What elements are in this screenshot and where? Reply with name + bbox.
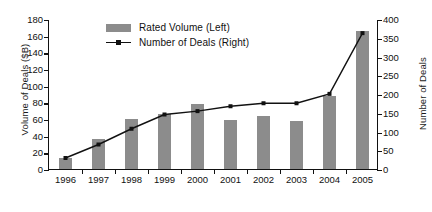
x-tick-label-2000: 2000 [187,175,208,185]
y-left-tick-label: 40 [32,132,43,142]
y-right-tick [377,20,382,21]
chart-container: Volume of Deals ($B) Number of Deals 020… [0,0,432,212]
x-tick-label-2003: 2003 [286,175,307,185]
y-right-tick [377,114,382,115]
line-marker-2001 [229,104,233,108]
y-left-tick [44,70,49,71]
x-tick-label-2002: 2002 [253,175,274,185]
x-tick-label-1999: 1999 [154,175,175,185]
y-left-tick [44,170,49,171]
x-tick [313,169,314,174]
y-left-tick-label: 140 [27,49,43,59]
y-left-tick-label: 20 [32,149,43,159]
y-left-tick [44,53,49,54]
y-left-tick [44,37,49,38]
y-right-tick [377,133,382,134]
x-tick-label-2005: 2005 [352,175,373,185]
y-left-tick [44,137,49,138]
x-tick-label-2001: 2001 [220,175,241,185]
y-right-tick-label: 100 [383,128,399,138]
y-right-tick-label: 400 [383,15,399,25]
y-right-tick-label: 50 [383,147,394,157]
y-left-tick-label: 80 [32,99,43,109]
legend-bar-swatch-icon [106,24,131,32]
y-left-tick [44,20,49,21]
line-marker-2003 [295,101,299,105]
legend-label-number-of-deals: Number of Deals (Right) [139,37,249,48]
line-series-path [66,33,363,158]
x-tick-label-2004: 2004 [319,175,340,185]
y-right-tick-label: 150 [383,109,399,119]
x-tick-label-1998: 1998 [121,175,142,185]
y-left-tick [44,87,49,88]
chart-legend: Rated Volume (Left) Number of Deals (Rig… [106,20,249,50]
y-left-tick [44,153,49,154]
x-tick-label-1996: 1996 [55,175,76,185]
y-right-tick [377,76,382,77]
line-marker-1996 [64,156,68,160]
line-marker-2002 [262,101,266,105]
y-right-tick [377,151,382,152]
y-left-tick [44,120,49,121]
legend-item-rated-volume: Rated Volume (Left) [106,20,249,35]
y-right-tick-label: 350 [383,34,399,44]
x-tick [148,169,149,174]
y-left-tick-label: 180 [27,15,43,25]
x-tick [115,169,116,174]
line-marker-1998 [130,127,134,131]
line-marker-2000 [196,109,200,113]
y-left-tick-label: 60 [32,115,43,125]
y-right-tick-label: 200 [383,90,399,100]
line-marker-1999 [163,113,167,117]
y-left-tick-label: 120 [27,65,43,75]
x-tick [181,169,182,174]
x-tick [247,169,248,174]
y-left-tick-label: 160 [27,32,43,42]
x-tick [280,169,281,174]
y-right-tick [377,95,382,96]
y-left-tick [44,103,49,104]
line-marker-2004 [328,92,332,96]
x-tick [82,169,83,174]
line-marker-2005 [361,31,365,35]
legend-label-rated-volume: Rated Volume (Left) [139,22,230,33]
y-right-tick-label: 250 [383,72,399,82]
line-marker-1997 [97,143,101,147]
x-tick [214,169,215,174]
y-right-tick [377,58,382,59]
x-tick [346,169,347,174]
x-tick-label-1997: 1997 [88,175,109,185]
y-left-tick-label: 0 [38,165,43,175]
legend-item-number-of-deals: Number of Deals (Right) [106,35,249,50]
line-series-markers [64,31,365,160]
y-right-tick-label: 300 [383,53,399,63]
y-right-tick [377,170,382,171]
y-axis-right-title: Number of Deals [417,24,428,164]
y-right-tick-label: 0 [383,165,388,175]
legend-line-marker-icon [106,39,131,47]
y-left-tick-label: 100 [27,82,43,92]
y-right-tick [377,39,382,40]
